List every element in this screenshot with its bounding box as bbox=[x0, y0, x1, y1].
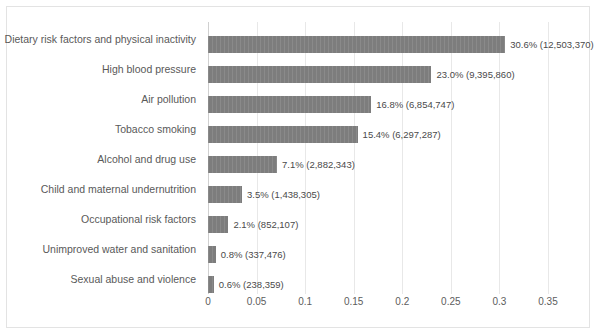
category-axis-labels: Dietary risk factors and physical inacti… bbox=[0, 22, 202, 294]
bar-row: 15.4% (6,297,287) bbox=[208, 120, 548, 150]
category-label: Sexual abuse and violence bbox=[70, 264, 196, 294]
category-label: Child and maternal undernutrition bbox=[41, 174, 196, 204]
x-tick-label: 0.3 bbox=[492, 296, 506, 307]
bar-value-label: 15.4% (6,297,287) bbox=[363, 126, 441, 143]
x-tick-label: 0 bbox=[205, 296, 211, 307]
category-label: Unimproved water and sanitation bbox=[42, 234, 196, 264]
bar-value-label: 0.8% (337,476) bbox=[221, 246, 286, 263]
plot-area: 30.6% (12,503,370)23.0% (9,395,860)16.8%… bbox=[208, 22, 548, 294]
bar[interactable] bbox=[208, 66, 431, 83]
bar-value-label: 23.0% (9,395,860) bbox=[436, 66, 514, 83]
bar-value-label: 0.6% (238,359) bbox=[219, 276, 284, 293]
x-tick-label: 0.1 bbox=[298, 296, 312, 307]
x-tick-label: 0.15 bbox=[344, 296, 363, 307]
bars-container: 30.6% (12,503,370)23.0% (9,395,860)16.8%… bbox=[208, 22, 548, 294]
bar[interactable] bbox=[208, 276, 214, 293]
x-tick-label: 0.2 bbox=[395, 296, 409, 307]
bar[interactable] bbox=[208, 156, 277, 173]
bar[interactable] bbox=[208, 96, 371, 113]
x-tick-label: 0.35 bbox=[538, 296, 557, 307]
bar[interactable] bbox=[208, 126, 358, 143]
bar-row: 2.1% (852,107) bbox=[208, 210, 548, 240]
category-label: Dietary risk factors and physical inacti… bbox=[5, 24, 196, 54]
x-tick-label: 0.05 bbox=[247, 296, 266, 307]
category-label: Alcohol and drug use bbox=[97, 144, 196, 174]
bar-row: 23.0% (9,395,860) bbox=[208, 60, 548, 90]
category-label: Tobacco smoking bbox=[115, 114, 196, 144]
bar-row: 3.5% (1,438,305) bbox=[208, 180, 548, 210]
value-axis-labels: 00.050.10.150.20.250.30.35 bbox=[208, 296, 548, 314]
bar-chart-figure: Dietary risk factors and physical inacti… bbox=[0, 0, 596, 334]
category-label: Occupational risk factors bbox=[81, 204, 196, 234]
gridline bbox=[548, 22, 549, 294]
bar-row: 16.8% (6,854,747) bbox=[208, 90, 548, 120]
category-label: High blood pressure bbox=[102, 54, 196, 84]
category-label: Air pollution bbox=[141, 84, 196, 114]
bar-value-label: 16.8% (6,854,747) bbox=[376, 96, 454, 113]
bar[interactable] bbox=[208, 246, 216, 263]
bar-value-label: 7.1% (2,882,343) bbox=[282, 156, 355, 173]
bar-row: 7.1% (2,882,343) bbox=[208, 150, 548, 180]
bar-row: 30.6% (12,503,370) bbox=[208, 30, 548, 60]
x-tick-label: 0.25 bbox=[441, 296, 460, 307]
bar[interactable] bbox=[208, 216, 228, 233]
bar[interactable] bbox=[208, 186, 242, 203]
bar-value-label: 3.5% (1,438,305) bbox=[247, 186, 320, 203]
bar-value-label: 2.1% (852,107) bbox=[233, 216, 298, 233]
bar-value-label: 30.6% (12,503,370) bbox=[510, 36, 593, 53]
bar[interactable] bbox=[208, 36, 505, 53]
bar-row: 0.8% (337,476) bbox=[208, 240, 548, 270]
